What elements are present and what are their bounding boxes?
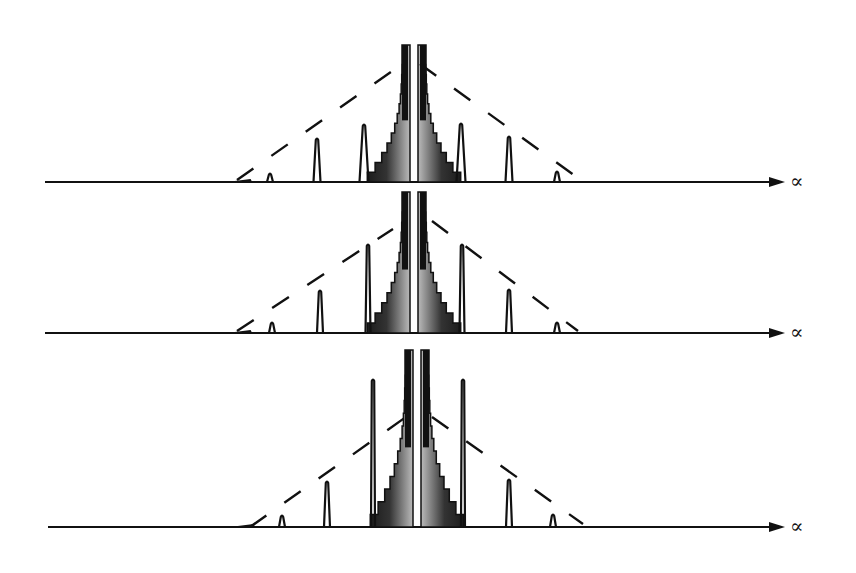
axis-arrowhead-icon xyxy=(769,522,785,532)
side-peak xyxy=(506,480,512,528)
side-peak xyxy=(506,137,513,183)
side-peak xyxy=(317,291,323,334)
spectra-figure: ∝ ∝ ∝ xyxy=(0,0,856,573)
central-peak-edge xyxy=(420,45,426,120)
side-peak xyxy=(360,125,369,183)
side-peak xyxy=(550,515,556,528)
side-peak xyxy=(461,380,465,528)
central-peak-edge xyxy=(405,350,411,447)
side-peak xyxy=(366,245,371,334)
envelope-dashed-right xyxy=(432,221,578,331)
axis-arrowhead-icon xyxy=(769,177,785,187)
central-peak-edge xyxy=(423,350,429,447)
panel-3: ∝ xyxy=(48,350,804,538)
axis-arrowhead-icon xyxy=(769,328,785,338)
side-peak xyxy=(314,139,321,183)
side-peak xyxy=(279,516,285,528)
side-peak xyxy=(371,380,375,528)
side-peak xyxy=(506,290,512,334)
axis-label-alpha: ∝ xyxy=(790,169,804,193)
axis-label-alpha: ∝ xyxy=(790,514,804,538)
side-peak xyxy=(324,482,330,528)
panel-2: ∝ xyxy=(45,192,804,344)
side-peak xyxy=(269,323,275,334)
side-peak xyxy=(554,323,560,334)
side-peak xyxy=(267,174,273,183)
panel-1: ∝ xyxy=(45,45,804,193)
side-peak xyxy=(554,172,560,183)
central-peak-edge xyxy=(420,192,426,270)
side-peak xyxy=(460,245,465,334)
axis-label-alpha: ∝ xyxy=(790,320,804,344)
central-peak-edge xyxy=(402,192,408,270)
central-peak-edge xyxy=(402,45,408,120)
